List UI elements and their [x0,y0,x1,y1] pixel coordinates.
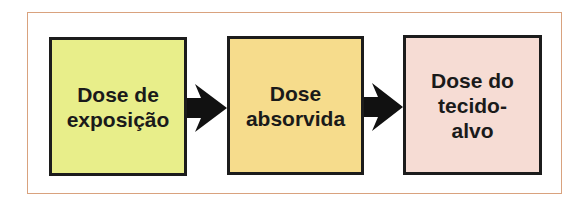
arrow-right-icon [187,84,229,132]
node-target-tissue-dose: Dose do tecido- alvo [403,35,542,175]
node-label: Dose do tecido- alvo [431,68,514,143]
arrow-right-icon [364,83,404,131]
node-exposure-dose: Dose de exposição [49,37,187,176]
node-label: Dose absorvida [246,81,345,131]
node-absorbed-dose: Dose absorvida [227,36,364,175]
node-label: Dose de exposição [67,82,170,132]
